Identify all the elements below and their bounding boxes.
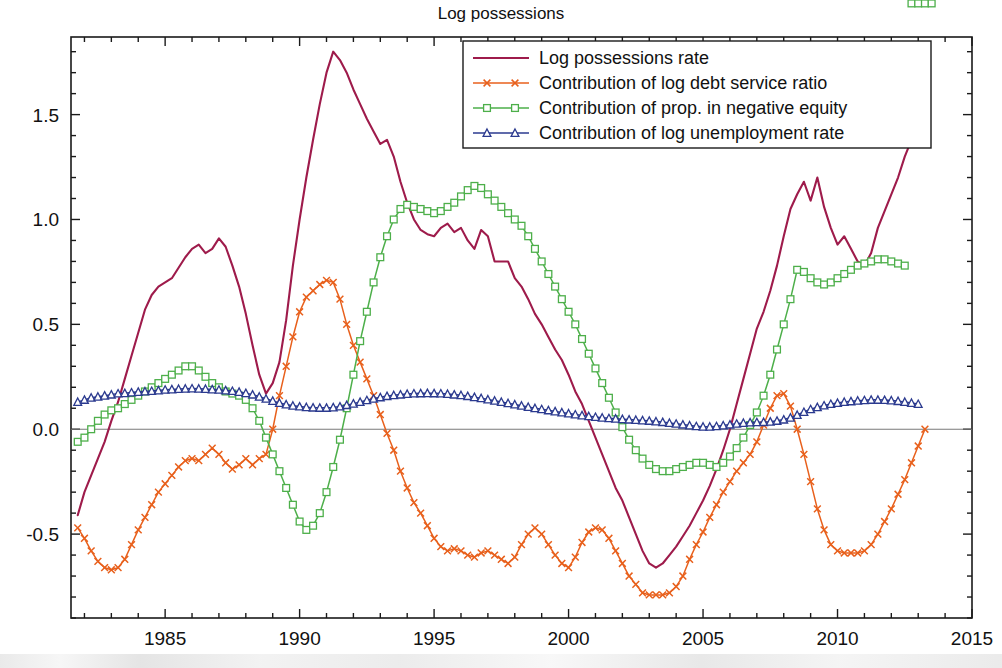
x-tick-label: 2000 [547,628,589,649]
chart-legend[interactable]: Log possessions rateContribution of log … [463,41,931,148]
y-tick-label: 0.5 [33,314,59,335]
y-tick-label: 0.0 [33,419,59,440]
series-1 [74,277,928,598]
y-tick-label: 1.5 [33,105,59,126]
y-tick-label: 1.0 [33,209,59,230]
x-tick-label: 1990 [278,628,320,649]
x-tick-label: 2010 [816,628,858,649]
y-tick-label: -0.5 [26,524,59,545]
x-tick-label: 1985 [144,628,186,649]
x-tick-label: 2015 [951,628,993,649]
x-tick-label: 2005 [682,628,724,649]
page-edge-artifact [0,654,1002,668]
legend-label-1: Contribution of log debt service ratio [539,73,827,93]
x-tick-label: 1995 [413,628,455,649]
chart-page: Log possessions -0.50.00.51.01.519851990… [0,0,1002,668]
legend-label-2: Contribution of prop. in negative equity [539,98,847,118]
chart-canvas: -0.50.00.51.01.5198519901995200020052010… [0,0,1002,668]
legend-label-0: Log possessions rate [539,48,709,68]
legend-label-3: Contribution of log unemployment rate [539,123,844,143]
